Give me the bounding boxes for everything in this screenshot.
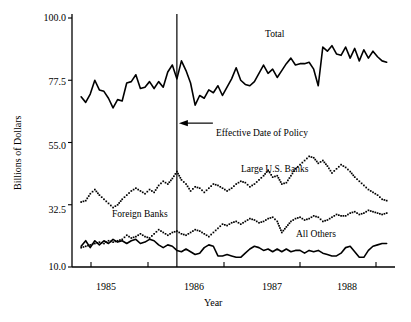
policy-line-annotation-label: Effective Date of Policy (216, 128, 308, 138)
series-label-all-others: All Others (296, 229, 336, 239)
series-line-total (81, 46, 387, 108)
series-label-large-us-banks: Large U.S. Banks (241, 164, 308, 174)
x-axis-tick-1986: 1986 (174, 281, 214, 292)
y-axis-tick-1: 77.5 (22, 76, 66, 87)
y-axis-tick-3: 32.5 (22, 204, 66, 215)
series-dots-large-u-s-banks (80, 156, 387, 209)
x-axis-tick-1988: 1988 (327, 281, 367, 292)
y-axis-tick-0: 100.0 (22, 12, 66, 23)
y-axis-tick-2: 55.0 (22, 140, 66, 151)
x-axis-tick-1987: 1987 (252, 281, 292, 292)
policy-arrow-head (179, 120, 188, 126)
series-label-total: Total (265, 29, 284, 39)
x-axis-title: Year (204, 297, 222, 308)
y-axis-tick-4: 10.0 (22, 261, 66, 272)
chart-container: 100.0 77.5 55.0 32.5 10.0 1985 1986 1987… (0, 0, 411, 322)
y-axis-title: Billions of Dollars (12, 116, 23, 190)
series-label-foreign-banks: Foreign Banks (112, 209, 168, 219)
chart-plot-area (0, 0, 411, 322)
series-line-all-others (81, 239, 387, 257)
x-axis-tick-1985: 1985 (86, 281, 126, 292)
policy-line-arrow (179, 120, 213, 126)
